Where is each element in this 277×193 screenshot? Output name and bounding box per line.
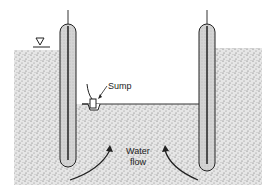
water-flow-label-line2: flow — [130, 157, 146, 167]
water-flow-label-line1: Water — [126, 146, 150, 156]
left-sheet-pile-wall — [60, 10, 76, 167]
sump-label: Sump — [108, 81, 132, 91]
diagram-canvas: Sump Water flow — [0, 0, 277, 193]
right-sheet-pile-wall — [199, 10, 215, 171]
water-table-triangle-icon — [33, 38, 50, 47]
